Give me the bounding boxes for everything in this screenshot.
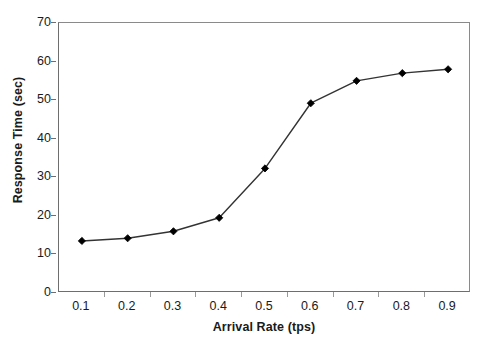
data-point-marker — [124, 235, 131, 242]
data-point-marker — [399, 70, 406, 77]
y-tick-mark — [51, 22, 56, 23]
x-tick-mark — [424, 292, 425, 297]
series-markers — [78, 66, 451, 245]
x-axis-ticks: 0.10.20.30.40.50.60.70.80.9 — [58, 292, 470, 318]
y-tick-mark — [51, 99, 56, 100]
x-tick-mark — [195, 292, 196, 297]
x-axis-title: Arrival Rate (tps) — [58, 320, 470, 334]
y-tick-label: 70 — [7, 16, 51, 28]
y-tick-mark — [51, 292, 56, 293]
y-tick-mark — [51, 215, 56, 216]
series-canvas — [59, 23, 471, 293]
y-axis-ticks: 010203040506070 — [0, 22, 51, 292]
series-line — [82, 69, 448, 241]
y-tick-label: 40 — [7, 132, 51, 144]
y-tick-label: 60 — [7, 55, 51, 67]
y-tick-label: 20 — [7, 209, 51, 221]
chart-figure: Response Time (sec) 010203040506070 0.10… — [0, 0, 495, 345]
y-tick-mark — [51, 253, 56, 254]
y-tick-label: 10 — [7, 247, 51, 259]
y-tick-mark — [51, 176, 56, 177]
x-tick-mark — [333, 292, 334, 297]
y-tick-label: 50 — [7, 93, 51, 105]
data-point-marker — [353, 77, 360, 84]
y-tick-label: 0 — [7, 286, 51, 298]
data-point-marker — [445, 66, 452, 73]
x-tick-mark — [241, 292, 242, 297]
x-tick-mark — [287, 292, 288, 297]
y-tick-mark — [51, 61, 56, 62]
y-tick-label: 30 — [7, 170, 51, 182]
plot-area — [58, 22, 470, 292]
y-tick-mark — [51, 138, 56, 139]
x-tick-mark — [150, 292, 151, 297]
data-point-marker — [78, 237, 85, 244]
x-tick-mark — [104, 292, 105, 297]
data-point-marker — [170, 228, 177, 235]
x-tick-mark — [378, 292, 379, 297]
x-tick-label: 0.9 — [417, 300, 477, 313]
